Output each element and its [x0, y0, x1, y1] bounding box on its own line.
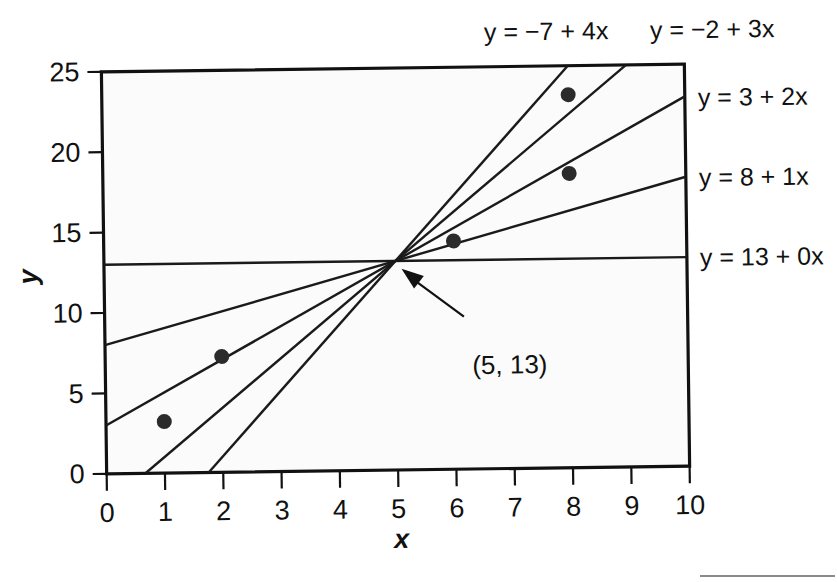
chart-figure: 0510152025 012345678910 x y y = −7 + 4x … — [0, 0, 837, 582]
x-axis-tick-label: 7 — [508, 492, 523, 522]
x-axis-tick-label: 2 — [216, 496, 231, 526]
y-axis-tick-label: 25 — [49, 57, 79, 87]
x-axis-tick-label: 8 — [566, 492, 581, 522]
equation-label-8-1x: y = 8 + 1x — [699, 162, 810, 191]
x-axis-tick-label: 1 — [158, 497, 173, 527]
equation-label-minus7-4x: y = −7 + 4x — [484, 16, 609, 46]
plot-background — [101, 64, 689, 474]
chart-canvas: 0510152025 012345678910 x y y = −7 + 4x … — [0, 0, 837, 582]
x-axis-tick-label: 9 — [624, 491, 639, 521]
x-axis-tick-label: 0 — [99, 498, 114, 528]
equation-label-13-0x: y = 13 + 0x — [700, 241, 825, 271]
convergence-point-label: (5, 13) — [472, 349, 548, 380]
y-axis-tick-label: 15 — [51, 218, 81, 248]
x-axis-tick-label: 5 — [391, 494, 406, 524]
x-axis-title: x — [392, 524, 410, 554]
x-axis-tick-label: 3 — [274, 495, 289, 525]
equation-label-3-2x: y = 3 + 2x — [698, 82, 809, 111]
x-axis-tick-label: 4 — [333, 495, 348, 525]
y-axis-tick-label: 5 — [68, 379, 83, 409]
y-axis-tick-label: 0 — [69, 459, 84, 489]
x-axis-tick-label: 6 — [449, 493, 464, 523]
x-axis-tick-label: 10 — [675, 490, 705, 520]
y-axis-tick-label: 20 — [50, 138, 80, 168]
equation-label-minus2-3x: y = −2 + 3x — [650, 14, 775, 44]
y-axis-tick-label: 10 — [52, 298, 82, 328]
y-axis-title: y — [13, 267, 43, 286]
